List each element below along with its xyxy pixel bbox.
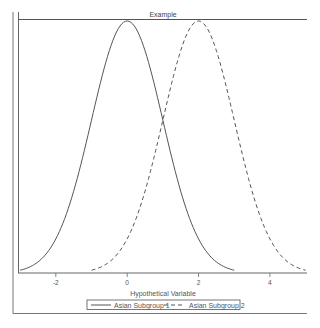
series-line-asian-subgroup-2: [92, 21, 306, 270]
series-line-asian-subgroup-1: [20, 21, 234, 270]
legend-label-1: Asian Subgroup 1: [114, 302, 170, 310]
legend: Asian Subgroup 1 Asian Subgroup 2: [87, 300, 245, 310]
x-axis-ticks: -2024: [53, 273, 272, 286]
chart-title: Example: [149, 11, 176, 19]
x-tick-label: 2: [197, 279, 201, 286]
x-axis-title: Hypothetical Variable: [130, 290, 196, 298]
x-tick-label: -2: [53, 279, 59, 286]
x-tick-label: 0: [125, 279, 129, 286]
x-tick-label: 4: [268, 279, 272, 286]
legend-label-2: Asian Subgroup 2: [189, 302, 245, 310]
chart-figure: Example -2024 Hypothetical Variable Asia…: [0, 0, 320, 328]
